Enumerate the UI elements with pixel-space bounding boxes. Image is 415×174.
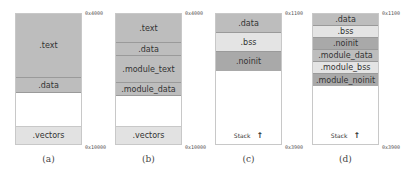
panel-d: .data .bss .noinit .module_data .module_…	[312, 0, 412, 174]
segment-module-bss: .module_bss	[313, 62, 378, 74]
stack-text: Stack	[234, 132, 251, 139]
caption: (c)	[215, 154, 282, 164]
memory-map-d: .data .bss .noinit .module_data .module_…	[312, 13, 379, 145]
address-bottom: 0x10000	[85, 144, 106, 150]
segment-module-data: .module_data	[116, 83, 181, 96]
segment-noinit: .noinit	[216, 52, 281, 71]
arrow-up-icon: ↑	[256, 131, 263, 140]
caption: (d)	[312, 154, 379, 164]
address-top: 0x4000	[185, 10, 203, 16]
segment-vectors: .vectors	[116, 126, 181, 144]
arrow-up-icon: ↑	[353, 131, 360, 140]
stack-text: Stack	[331, 132, 348, 139]
segment-module-text: .module_text	[116, 56, 181, 83]
segment-data: .data	[216, 14, 281, 33]
address-top: 0x1100	[285, 10, 303, 16]
segment-noinit: .noinit	[313, 38, 378, 50]
memory-map-a: .text .data .vectors	[15, 13, 82, 145]
segment-data: .data	[16, 78, 81, 93]
address-bottom: 0x10000	[185, 144, 206, 150]
segment-bss: .bss	[313, 26, 378, 38]
segment-data: .data	[116, 43, 181, 56]
segment-data: .data	[313, 14, 378, 26]
memory-map-c: .data .bss .noinit Stack↑	[215, 13, 282, 145]
segment-text: .text	[116, 14, 181, 43]
panel-a: .text .data .vectors 0x4000 0x10000 (a)	[15, 0, 115, 174]
segment-module-data: .module_data	[313, 50, 378, 62]
memory-map-b: .text .data .module_text .module_data .v…	[115, 13, 182, 145]
segment-vectors: .vectors	[16, 126, 81, 144]
stack-label: Stack↑	[313, 131, 378, 140]
segment-text: .text	[16, 14, 81, 78]
panel-c: .data .bss .noinit Stack↑ 0x1100 0x3900 …	[215, 0, 315, 174]
address-top: 0x1100	[382, 10, 400, 16]
address-bottom: 0x3900	[285, 144, 303, 150]
panel-b: .text .data .module_text .module_data .v…	[115, 0, 215, 174]
caption: (b)	[115, 154, 182, 164]
segment-bss: .bss	[216, 33, 281, 52]
caption: (a)	[15, 154, 82, 164]
address-bottom: 0x3900	[382, 144, 400, 150]
address-top: 0x4000	[85, 10, 103, 16]
stack-label: Stack↑	[216, 131, 281, 140]
segment-module-noinit: .module_noinit	[313, 74, 378, 86]
